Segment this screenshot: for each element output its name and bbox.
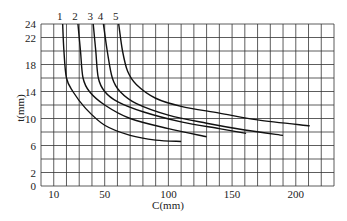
y-axis-label: t(mm) [14,94,27,122]
x-tick-label: 200 [288,188,305,200]
y-tick-label: 24 [25,18,37,30]
curve-label-2: 2 [72,10,78,22]
y-tick-label: 2 [31,167,37,179]
curve-label-4: 4 [98,10,104,22]
curve-3 [93,24,246,133]
chart: 10501001502000261014182224 12345 C(mm) t… [0,0,347,221]
y-tick-label: 18 [25,59,37,71]
y-tick-label: 6 [31,140,37,152]
y-tick-label: 14 [25,86,37,98]
grid: 10501001502000261014182224 [25,18,334,200]
curve-5 [119,24,310,126]
y-tick-label: 0 [31,180,37,192]
curve-label-1: 1 [57,10,63,22]
curve-label-3: 3 [87,10,93,22]
curve-1 [63,24,181,141]
y-tick-label: 10 [25,113,37,125]
y-tick-label: 22 [25,32,36,44]
x-tick-label: 10 [48,188,60,200]
x-axis-label: C(mm) [152,199,184,212]
curve-label-5: 5 [113,10,119,22]
x-tick-label: 150 [224,188,241,200]
curves: 12345 [57,10,310,141]
x-tick-label: 50 [99,188,111,200]
